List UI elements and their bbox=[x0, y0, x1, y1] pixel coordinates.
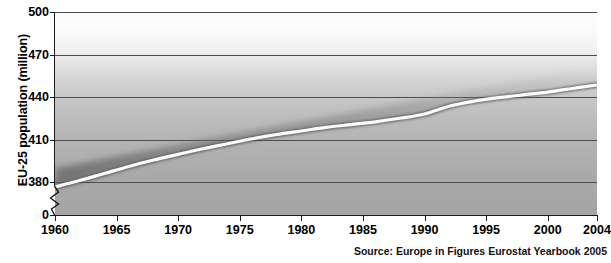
x-tick-label: 1960 bbox=[41, 223, 69, 237]
plot-area bbox=[55, 12, 597, 215]
x-tick-label: 1990 bbox=[411, 223, 439, 237]
x-tick-label: 2004 bbox=[583, 223, 611, 237]
y-tick-label: 470 bbox=[28, 48, 49, 62]
y-tick-label: 0 bbox=[42, 208, 49, 222]
y-tick-label: 440 bbox=[28, 90, 49, 104]
y-tick-label: 380 bbox=[28, 175, 49, 189]
x-tick-label: 1970 bbox=[164, 223, 192, 237]
x-tick-label: 1995 bbox=[472, 223, 500, 237]
y-tick-label: 410 bbox=[28, 133, 49, 147]
x-axis-ticks bbox=[56, 215, 598, 221]
source-note: Source: Europe in Figures Eurostat Yearb… bbox=[354, 245, 607, 257]
x-tick-label: 2000 bbox=[534, 223, 562, 237]
y-tick-label: 500 bbox=[28, 5, 49, 19]
plot-svg bbox=[55, 12, 597, 215]
x-tick-label: 1980 bbox=[287, 223, 315, 237]
x-tick-label: 1975 bbox=[226, 223, 254, 237]
x-tick-label: 1965 bbox=[103, 223, 131, 237]
data-line-series bbox=[55, 85, 597, 187]
x-tick-label: 1985 bbox=[349, 223, 377, 237]
